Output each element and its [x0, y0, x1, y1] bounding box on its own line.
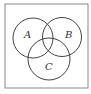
set-a-label: A	[23, 29, 31, 40]
set-b-label: B	[64, 29, 72, 40]
set-c-label: C	[45, 61, 53, 72]
venn-diagram: A B C	[0, 0, 91, 94]
universal-set-frame	[5, 4, 88, 88]
